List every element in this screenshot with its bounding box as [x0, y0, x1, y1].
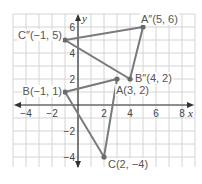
y-axis-arrow-down-icon — [75, 161, 81, 168]
point-c2 — [62, 37, 67, 42]
point-b2 — [127, 76, 132, 81]
coordinate-plane: xy −4−22468642−2−4 A(3, 2)B(−1, 1)C(2, −… — [0, 0, 202, 184]
x-axis-label: x — [187, 107, 193, 119]
x-tick-label: 2 — [101, 108, 107, 119]
point-label-a2: A″(5, 6) — [141, 13, 178, 25]
y-tick-label: −2 — [64, 126, 76, 137]
y-tick-label: 4 — [69, 48, 75, 59]
point-label-c: C(2, −4) — [108, 158, 148, 170]
point-b — [62, 89, 67, 94]
y-axis-label: y — [81, 12, 87, 24]
point-label-b: B(−1, 1) — [23, 85, 62, 97]
x-tick-label: 8 — [179, 108, 185, 119]
x-tick-label: −4 — [20, 108, 32, 119]
x-tick-label: 6 — [153, 108, 159, 119]
point-label-b2: B″(4, 2) — [135, 72, 172, 84]
point-label-c2: C″(−1, 5) — [18, 29, 62, 41]
y-tick-label: 6 — [69, 22, 75, 33]
x-tick-label: −2 — [46, 108, 58, 119]
y-axis-arrow-up-icon — [75, 14, 81, 21]
x-tick-label: 4 — [127, 108, 133, 119]
point-c — [101, 154, 106, 159]
point-label-a: A(3, 2) — [116, 84, 149, 96]
y-tick-label: −4 — [64, 152, 76, 163]
point-a2 — [140, 24, 145, 29]
point-a — [114, 76, 119, 81]
y-tick-label: 2 — [69, 74, 75, 85]
